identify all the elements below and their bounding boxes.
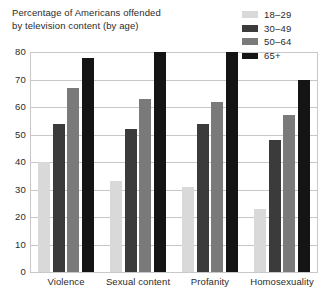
- bar: [67, 88, 79, 272]
- bar: [298, 80, 310, 273]
- legend-item-50-64: 50–64: [242, 35, 324, 49]
- y-tick-label-70: 70: [0, 75, 26, 85]
- bar: [226, 52, 238, 272]
- y-tick-label-0: 0: [0, 267, 26, 277]
- x-tick-label: Violence: [30, 276, 102, 287]
- bar: [197, 124, 209, 273]
- bar: [82, 58, 94, 273]
- bar: [269, 140, 281, 272]
- x-tick-label: Profanity: [174, 276, 246, 287]
- bar: [110, 181, 122, 272]
- legend-swatch-18-29: [242, 11, 258, 18]
- y-tick-label-50: 50: [0, 130, 26, 140]
- y-tick-label-20: 20: [0, 212, 26, 222]
- y-tick-label-30: 30: [0, 185, 26, 195]
- legend-item-18-29: 18–29: [242, 8, 324, 22]
- chart-title-line-2: by television content (by age): [12, 20, 222, 33]
- bar: [154, 52, 166, 272]
- y-tick-label-80: 80: [0, 47, 26, 57]
- y-axis: 01020304050607080: [0, 52, 26, 272]
- bar: [38, 162, 50, 272]
- bar: [53, 124, 65, 273]
- legend-swatch-30-49: [242, 25, 258, 32]
- y-tick-label-40: 40: [0, 157, 26, 167]
- y-tick-label-10: 10: [0, 240, 26, 250]
- legend-label-50-64: 50–64: [264, 37, 291, 47]
- bar: [283, 115, 295, 272]
- legend-swatch-50-64: [242, 38, 258, 45]
- bar: [139, 99, 151, 272]
- x-tick-label: Homosexuality: [246, 276, 318, 287]
- chart-title: Percentage of Americans offended by tele…: [12, 7, 222, 32]
- bar: [211, 102, 223, 273]
- gridline-0: [30, 272, 318, 273]
- legend-label-30-49: 30–49: [264, 24, 291, 34]
- legend-label-18-29: 18–29: [264, 10, 291, 20]
- bar: [254, 209, 266, 272]
- bar: [125, 129, 137, 272]
- x-axis: ViolenceSexual contentProfanityHomosexua…: [30, 276, 318, 292]
- legend-item-30-49: 30–49: [242, 22, 324, 36]
- bars-layer: [30, 52, 318, 272]
- chart-title-line-1: Percentage of Americans offended: [12, 7, 222, 20]
- x-tick-label: Sexual content: [102, 276, 174, 287]
- y-tick-label-60: 60: [0, 102, 26, 112]
- bar: [182, 187, 194, 272]
